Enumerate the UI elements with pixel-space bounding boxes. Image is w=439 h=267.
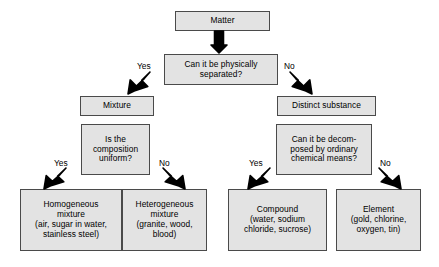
arrow-decompose-to-compound xyxy=(248,168,270,189)
arrow-uniform-to-heterogeneous xyxy=(163,168,185,189)
node-physically-separated: Can it be physically separated? xyxy=(164,54,278,85)
edge-label-yes-uniform: Yes xyxy=(54,159,68,167)
arrow-matter-to-question xyxy=(211,31,227,53)
node-decomposed-chemical: Can it be decom- posed by ordinary chemi… xyxy=(276,124,372,175)
edge-label-no-decompose: No xyxy=(380,159,391,167)
arrow-question-to-mixture xyxy=(128,72,150,94)
node-compound: Compound (water, sodium chloride, sucros… xyxy=(228,189,327,251)
edge-label-yes-decompose: Yes xyxy=(249,159,263,167)
node-matter: Matter xyxy=(175,11,270,31)
matter-classification-flowchart: MatterCan it be physically separated?Mix… xyxy=(0,0,439,267)
node-heterogeneous-mixture: Heterogeneous mixture (granite, wood, bl… xyxy=(122,189,207,251)
edge-label-yes-separate: Yes xyxy=(137,62,151,70)
node-mixture: Mixture xyxy=(80,96,154,116)
node-composition-uniform: Is the composition uniform? xyxy=(81,124,150,175)
arrow-question-to-distinct xyxy=(290,72,312,94)
edge-label-no-uniform: No xyxy=(159,159,170,167)
arrow-decompose-to-element xyxy=(379,168,401,189)
edge-label-no-separate: No xyxy=(284,62,295,70)
node-element: Element (gold, chlorine, oxygen, tin) xyxy=(336,189,421,251)
arrow-uniform-to-homogeneous xyxy=(44,168,66,189)
node-distinct-substance: Distinct substance xyxy=(277,96,376,116)
node-homogeneous-mixture: Homogeneous mixture (air, sugar in water… xyxy=(20,189,122,251)
